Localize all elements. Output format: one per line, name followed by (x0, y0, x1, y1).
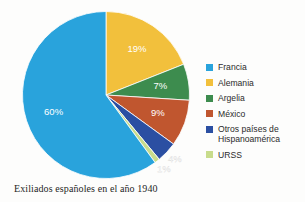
legend-swatch-icon (206, 110, 213, 117)
legend-item[interactable]: Francia (206, 62, 304, 72)
pie-slice-label: 1% (157, 163, 171, 174)
legend-swatch-icon (206, 64, 213, 71)
legend-item[interactable]: Argelia (206, 93, 304, 103)
pie-slice-group (22, 11, 189, 178)
legend-item[interactable]: URSS (206, 150, 304, 160)
pie-slice-label: 9% (151, 107, 165, 118)
legend-item-label: Alemania (218, 78, 254, 88)
pie-chart: 19%7%9%4%1%60% (22, 11, 190, 179)
pie-slice-label: 7% (154, 80, 168, 91)
pie-chart-svg: 19%7%9%4%1%60% (22, 11, 190, 179)
legend-item[interactable]: Otros países de Hispanoamérica (206, 124, 304, 144)
legend-item-label: Francia (218, 62, 247, 72)
chart-page: 19%7%9%4%1%60% FranciaAlemaniaArgeliaMéx… (0, 0, 305, 202)
legend-swatch-icon (206, 95, 213, 102)
legend-item-label: Otros países de Hispanoamérica (218, 124, 280, 144)
legend-swatch-icon (206, 79, 213, 86)
legend-item-label: México (218, 109, 245, 119)
legend-item-label: Argelia (218, 93, 245, 103)
legend-swatch-icon (206, 151, 213, 158)
legend-item[interactable]: México (206, 109, 304, 119)
legend-item[interactable]: Alemania (206, 78, 304, 88)
pie-slice-label: 60% (44, 106, 64, 117)
pie-slice-label: 19% (127, 43, 147, 54)
chart-legend: FranciaAlemaniaArgeliaMéxicoOtros países… (206, 62, 304, 165)
legend-item-label: URSS (218, 150, 242, 160)
legend-swatch-icon (206, 126, 213, 133)
chart-caption: Exiliados españoles en el año 1940 (14, 183, 158, 194)
